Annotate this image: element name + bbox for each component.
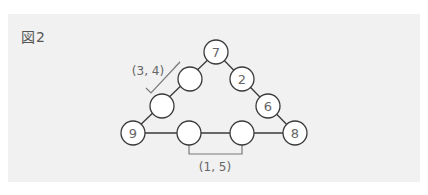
svg-text:2: 2 xyxy=(238,72,246,87)
node-right-1: 2 xyxy=(230,67,254,91)
svg-text:8: 8 xyxy=(291,126,299,141)
node-right-2: 6 xyxy=(256,94,280,118)
node-bottom-2 xyxy=(230,121,254,145)
svg-text:7: 7 xyxy=(212,45,220,60)
node-left-2 xyxy=(150,94,174,118)
node-top: 7 xyxy=(204,40,228,64)
node-bottom-right: 8 xyxy=(283,121,307,145)
left-bracket-label: (3, 4) xyxy=(132,64,164,78)
triangle-diagram: (3, 4) (1, 5) 7 9 2 6 8 xyxy=(0,0,428,195)
bottom-bracket-label: (1, 5) xyxy=(199,160,231,174)
right-edge xyxy=(216,52,295,133)
node-bottom-left: 9 xyxy=(121,121,145,145)
node-left-1 xyxy=(178,67,202,91)
svg-text:6: 6 xyxy=(264,99,272,114)
bottom-bracket xyxy=(189,145,242,154)
node-bottom-1 xyxy=(177,121,201,145)
svg-text:9: 9 xyxy=(129,126,137,141)
